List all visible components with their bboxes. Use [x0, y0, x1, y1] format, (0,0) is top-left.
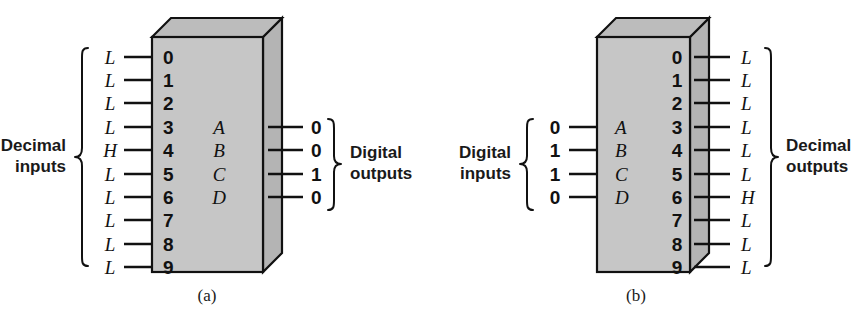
- output-level-1: L: [740, 70, 752, 91]
- output-level-0: L: [740, 47, 752, 68]
- encoder-pin-9: 9: [163, 257, 174, 278]
- encoder-pin-4: 4: [163, 140, 174, 161]
- decoder-pin-2: 2: [672, 93, 683, 114]
- decoder-pin-a: A: [613, 117, 627, 138]
- decimal-inputs-label-line2: inputs: [15, 157, 66, 176]
- decoder-pin-d: D: [614, 187, 629, 208]
- encoder-block-side-face: [263, 18, 282, 272]
- panel-b: Digital inputs 0 1 1 0 A B C D 0 1 2 3 4…: [459, 18, 851, 305]
- output-bit-c: 1: [311, 164, 322, 185]
- decimal-outputs-label-line1: Decimal: [786, 136, 851, 155]
- output-level-8: L: [740, 234, 752, 255]
- output-level-5: L: [740, 164, 752, 185]
- figure-canvas: Decimal inputs L L L L H L L L L L 0 1 2…: [0, 0, 852, 312]
- encoder-pin-8: 8: [163, 234, 174, 255]
- decimal-outputs-brace: [765, 48, 778, 266]
- encoder-pin-7: 7: [163, 210, 174, 231]
- input-bit-d: 0: [550, 187, 561, 208]
- input-level-3: L: [104, 117, 116, 138]
- digital-inputs-label-line1: Digital: [459, 143, 511, 162]
- output-level-3: L: [740, 117, 752, 138]
- encoder-pin-1: 1: [163, 70, 174, 91]
- decoder-pin-5: 5: [672, 164, 683, 185]
- digital-outputs-label-line2: outputs: [350, 164, 412, 183]
- panel-a: Decimal inputs L L L L H L L L L L 0 1 2…: [1, 18, 413, 305]
- decoder-pin-b: B: [615, 140, 627, 161]
- input-level-6: L: [104, 187, 116, 208]
- digital-inputs-label-line2: inputs: [460, 164, 511, 183]
- decoder-pin-9: 9: [672, 257, 683, 278]
- output-bit-d: 0: [311, 187, 322, 208]
- encoder-pin-6: 6: [163, 187, 174, 208]
- encoder-pin-d: D: [211, 187, 226, 208]
- encoder-pin-5: 5: [163, 164, 174, 185]
- decimal-outputs-label-line2: outputs: [786, 157, 848, 176]
- encoder-pin-b: B: [213, 140, 225, 161]
- decoder-pin-3: 3: [672, 117, 683, 138]
- input-level-5: L: [104, 164, 116, 185]
- digital-outputs-brace: [328, 119, 341, 210]
- output-level-7: L: [740, 210, 752, 231]
- output-level-4: L: [740, 140, 752, 161]
- input-level-2: L: [104, 93, 116, 114]
- decoder-pin-c: C: [615, 164, 628, 185]
- encoder-pin-a: A: [211, 117, 225, 138]
- panel-a-caption: (a): [198, 286, 217, 305]
- encoder-block-top-face: [152, 18, 282, 37]
- digital-outputs-label-line1: Digital: [350, 143, 402, 162]
- output-level-6: H: [740, 187, 756, 208]
- output-bit-b: 0: [311, 140, 322, 161]
- decoder-pin-7: 7: [672, 210, 683, 231]
- input-bit-b: 1: [550, 140, 561, 161]
- decoder-pin-1: 1: [672, 70, 683, 91]
- encoder-pin-c: C: [213, 164, 226, 185]
- digital-inputs-brace: [520, 119, 533, 210]
- input-bit-c: 1: [550, 164, 561, 185]
- input-bit-a: 0: [550, 117, 561, 138]
- encoder-pin-3: 3: [163, 117, 174, 138]
- input-level-8: L: [104, 234, 116, 255]
- decimal-inputs-label-line1: Decimal: [1, 136, 66, 155]
- decimal-inputs-brace: [75, 48, 88, 266]
- decoder-pin-0: 0: [672, 47, 683, 68]
- input-level-4: H: [102, 140, 118, 161]
- decoder-pin-6: 6: [672, 187, 683, 208]
- input-level-7: L: [104, 210, 116, 231]
- decoder-block: [597, 18, 709, 272]
- panel-b-caption: (b): [626, 286, 646, 305]
- encoder-pin-0: 0: [163, 47, 174, 68]
- input-level-0: L: [104, 47, 116, 68]
- output-bit-a: 0: [311, 117, 322, 138]
- output-level-2: L: [740, 93, 752, 114]
- output-level-9: L: [740, 257, 752, 278]
- input-level-1: L: [104, 70, 116, 91]
- decoder-block-top-face: [597, 18, 709, 37]
- input-level-9: L: [104, 257, 116, 278]
- decoder-pin-4: 4: [672, 140, 683, 161]
- encoder-pin-2: 2: [163, 93, 174, 114]
- decoder-pin-8: 8: [672, 234, 683, 255]
